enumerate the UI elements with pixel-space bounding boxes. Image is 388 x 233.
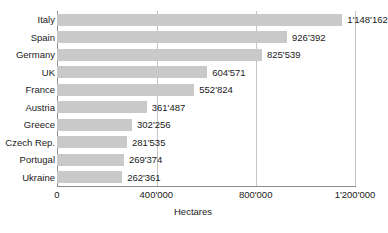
bar-value-label: 361'487	[152, 99, 186, 117]
bar-value-label: 604'571	[212, 64, 246, 82]
bar-row: France552'824	[0, 81, 386, 99]
source-note	[52, 226, 170, 233]
bar-value-label: 552'824	[199, 81, 233, 99]
x-tick-label: 1'200'000	[335, 189, 376, 200]
category-label: Austria	[0, 99, 55, 117]
bar-row: Germany825'539	[0, 46, 386, 64]
bar	[57, 84, 194, 96]
bar-row: Ukraine262'361	[0, 169, 386, 187]
bar	[57, 49, 262, 61]
bar-value-label: 281'535	[132, 134, 166, 152]
category-label: Portugal	[0, 151, 55, 169]
bar	[57, 66, 207, 78]
bar	[57, 136, 127, 148]
x-axis-title: Hectares	[0, 206, 386, 217]
category-label: Czech Rep.	[0, 134, 55, 152]
bar-value-label: 825'539	[267, 46, 301, 64]
x-tick-label: 400'000	[140, 189, 174, 200]
category-label: France	[0, 81, 55, 99]
bar-row: UK604'571	[0, 64, 386, 82]
bar	[57, 101, 147, 113]
bar	[57, 14, 342, 26]
category-label: Spain	[0, 29, 55, 47]
x-tick-label: 800'000	[239, 189, 273, 200]
bar	[57, 171, 122, 183]
x-tick-label: 0	[54, 189, 59, 200]
bar	[57, 154, 124, 166]
category-label: UK	[0, 64, 55, 82]
bar-value-label: 1'148'162	[347, 11, 388, 29]
bar-value-label: 269'374	[129, 151, 163, 169]
bar-row: Czech Rep.281'535	[0, 134, 386, 152]
category-label: Ukraine	[0, 169, 55, 187]
bar-row: Italy1'148'162	[0, 11, 386, 29]
bar-value-label: 926'392	[292, 29, 326, 47]
bar-row: Spain926'392	[0, 29, 386, 47]
bar-row: Greece302'256	[0, 116, 386, 134]
bar	[57, 31, 287, 43]
bar	[57, 119, 132, 131]
category-label: Italy	[0, 11, 55, 29]
bar-row: Austria361'487	[0, 99, 386, 117]
bar-value-label: 262'361	[127, 169, 161, 187]
category-label: Germany	[0, 46, 55, 64]
x-axis-line	[57, 186, 356, 187]
bar-value-label: 302'256	[137, 116, 171, 134]
bar-row: Portugal269'374	[0, 151, 386, 169]
category-label: Greece	[0, 116, 55, 134]
